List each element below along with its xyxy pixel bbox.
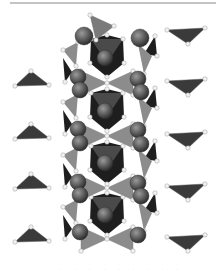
triangle-group [13, 122, 51, 141]
triangle-icon [15, 71, 49, 86]
oxygen-atom [89, 91, 93, 95]
oxygen-atom [13, 187, 17, 191]
left-triangular-groups [13, 69, 51, 244]
oxygen-atom [105, 81, 109, 85]
cation-sphere [131, 29, 149, 47]
oxygen-atom [13, 84, 17, 88]
triangle-icon [167, 132, 205, 148]
cation-sphere [130, 122, 146, 138]
oxygen-atom [203, 26, 207, 30]
oxygen-atom [155, 211, 159, 215]
tetrahedron-left-dark [63, 215, 72, 239]
oxygen-atom [29, 69, 33, 73]
triangle-group [13, 172, 51, 191]
oxygen-atom [89, 144, 93, 148]
cation-sphere [70, 121, 86, 137]
oxygen-atom [153, 139, 157, 143]
oxygen-atom [121, 91, 125, 95]
oxygen-atom [13, 240, 17, 244]
oxygen-atom [74, 64, 78, 68]
oxygen-atom [47, 136, 51, 140]
triangle-icon [167, 235, 205, 251]
cation-sphere [97, 155, 113, 171]
cation-sphere [72, 224, 88, 240]
oxygen-atom [105, 75, 109, 79]
oxygen-atom [155, 54, 159, 58]
oxygen-atom [121, 37, 125, 41]
oxygen-atom [186, 146, 190, 150]
oxygen-atom [61, 153, 65, 157]
oxygen-atom [153, 86, 157, 90]
oxygen-atom [88, 115, 92, 119]
triangle-group [165, 26, 207, 46]
oxygen-atom [165, 28, 169, 32]
triangle-icon [15, 174, 49, 189]
oxygen-atom [79, 249, 83, 253]
oxygen-atom [13, 137, 17, 141]
oxygen-atom [112, 24, 116, 28]
triangle-icon [167, 28, 205, 44]
oxygen-atom [47, 83, 51, 87]
triangle-icon [15, 227, 49, 242]
oxygen-atom [47, 239, 51, 243]
cation-sphere [97, 103, 113, 119]
oxygen-atom [203, 233, 207, 237]
triangle-group [165, 130, 207, 150]
cation-sphere [133, 188, 149, 204]
oxygen-atom [105, 87, 109, 91]
oxygen-atom [105, 129, 109, 133]
cation-sphere [75, 27, 93, 45]
oxygen-atom [105, 33, 109, 37]
oxygen-atom [165, 132, 169, 136]
oxygen-atom [29, 122, 33, 126]
oxygen-atom [186, 42, 190, 46]
oxygen-atom [63, 237, 67, 241]
oxygen-atom [203, 182, 207, 186]
oxygen-atom [105, 233, 109, 237]
cation-sphere [72, 82, 88, 98]
oxygen-atom [186, 93, 190, 97]
oxygen-atom [203, 77, 207, 81]
triangle-group [13, 225, 51, 244]
oxygen-atom [186, 249, 190, 253]
oxygen-atom [165, 184, 169, 188]
oxygen-atom [88, 13, 92, 17]
oxygen-atom [61, 48, 65, 52]
oxygen-atom [29, 172, 33, 176]
oxygen-atom [63, 132, 67, 136]
oxygen-atom [29, 225, 33, 229]
triangle-group [165, 77, 207, 97]
triangle-group [165, 182, 207, 202]
oxygen-atom [88, 61, 92, 65]
oxygen-atom [122, 61, 126, 65]
oxygen-atom [105, 140, 109, 144]
bottom-marks: . . . . . . . . . [60, 266, 210, 270]
oxygen-atom [165, 235, 169, 239]
oxygen-atom [121, 144, 125, 148]
oxygen-atom [122, 115, 126, 119]
oxygen-atom [74, 169, 78, 173]
oxygen-atom [105, 182, 109, 186]
triangle-icon [15, 124, 49, 139]
right-triangular-groups [165, 26, 207, 253]
oxygen-atom [94, 38, 98, 42]
oxygen-atom [155, 159, 159, 163]
cation-sphere [133, 136, 149, 152]
oxygen-atom [63, 80, 67, 84]
oxygen-atom [88, 168, 92, 172]
oxygen-atom [203, 130, 207, 134]
oxygen-atom [105, 186, 109, 190]
cation-sphere [97, 207, 113, 223]
oxygen-atom [105, 191, 109, 195]
oxygen-atom [153, 34, 157, 38]
triangle-group [13, 69, 51, 88]
oxygen-atom [153, 191, 157, 195]
triangle-icon [167, 184, 205, 200]
oxygen-atom [47, 186, 51, 190]
oxygen-atom [165, 79, 169, 83]
cation-sphere [97, 50, 113, 66]
oxygen-atom [186, 198, 190, 202]
oxygen-atom [74, 116, 78, 120]
triangle-icon [167, 79, 205, 95]
cation-sphere [72, 187, 88, 203]
